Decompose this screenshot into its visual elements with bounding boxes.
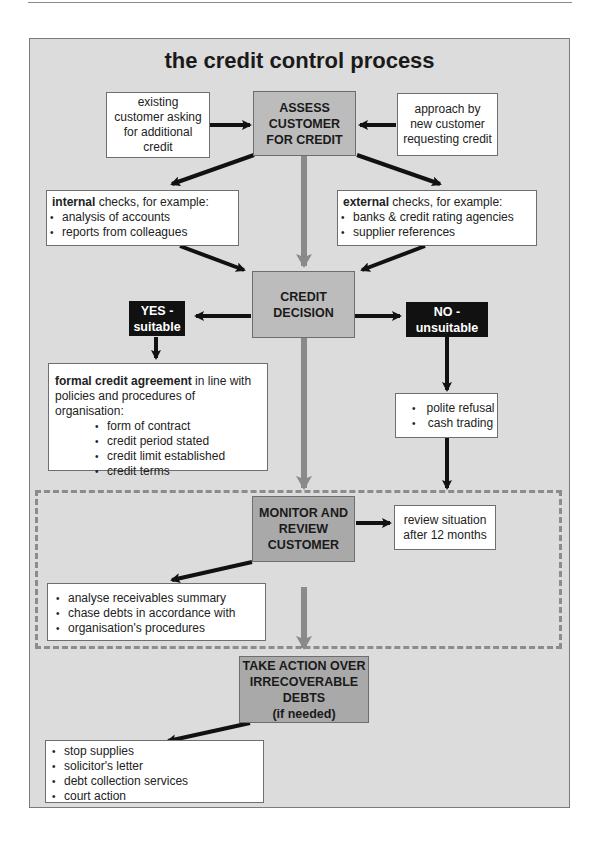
formal-agreement-line2: policies and procedures of organisation:	[55, 389, 261, 419]
existing-customer-line: for additional	[107, 125, 209, 140]
external-rest: checks, for example:	[389, 195, 502, 209]
monitor-action-item: chase debts in accordance with	[54, 606, 259, 621]
unsuitable-action-item: cash trading	[410, 416, 497, 431]
review-situation-box: review situation after 12 months	[394, 505, 496, 550]
formal-agreement-item: credit terms	[93, 464, 261, 479]
take-action-line: TAKE ACTION OVER	[243, 658, 366, 674]
take-action-box: TAKE ACTION OVER IRRECOVERABLE DEBTS (if…	[239, 656, 369, 723]
formal-rest: in line with	[192, 374, 251, 388]
take-action-line: (if needed)	[272, 706, 335, 722]
internal-checks-box: internal checks, for example: analysis o…	[46, 190, 239, 246]
take-action-line: IRRECOVERABLE	[250, 674, 358, 690]
yes-line: suitable	[129, 319, 185, 335]
credit-decision-line: CREDIT	[280, 289, 327, 305]
debt-action-item: court action	[50, 789, 259, 804]
take-action-line: DEBTS	[283, 690, 325, 706]
no-unsuitable-label: NO - unsuitable	[406, 302, 488, 337]
monitor-line: MONITOR AND	[259, 505, 348, 521]
monitor-line: REVIEW	[279, 521, 328, 537]
formal-agreement-item: form of contract	[93, 419, 261, 434]
monitor-action-item-continued: organisation's procedures	[54, 621, 259, 636]
no-line: NO -	[406, 304, 488, 320]
external-check-item: banks & credit rating agencies	[339, 210, 531, 225]
debt-action-item: stop supplies	[50, 744, 259, 759]
monitor-action-item: analyse receivables summary	[54, 591, 259, 606]
formal-agreement-item: credit period stated	[93, 434, 261, 449]
monitor-line: CUSTOMER	[268, 537, 339, 553]
new-customer-line: approach by	[398, 102, 497, 117]
debt-actions-box: stop supplies solicitor's letter debt co…	[45, 740, 264, 803]
external-checks-heading: external checks, for example:	[343, 195, 531, 210]
monitor-review-box: MONITOR AND REVIEW CUSTOMER	[252, 496, 355, 562]
formal-agreement-item: credit limit established	[93, 449, 261, 464]
formal-bold: formal credit agreement	[55, 374, 192, 388]
assess-line: CUSTOMER	[269, 116, 340, 132]
external-check-item: supplier references	[339, 225, 531, 240]
yes-suitable-label: YES - suitable	[129, 301, 185, 336]
existing-customer-box: existing customer asking for additional …	[106, 92, 210, 158]
no-line: unsuitable	[406, 320, 488, 336]
credit-decision-line: DECISION	[273, 305, 333, 321]
internal-bold: internal	[52, 195, 95, 209]
credit-decision-box: CREDIT DECISION	[252, 271, 355, 338]
review-situation-line: review situation	[395, 513, 495, 528]
assess-line: FOR CREDIT	[266, 132, 342, 148]
existing-customer-line: credit	[107, 140, 209, 155]
new-customer-line: requesting credit	[398, 132, 497, 147]
yes-line: YES -	[129, 303, 185, 319]
existing-customer-line: customer asking	[107, 110, 209, 125]
debt-action-item: debt collection services	[50, 774, 259, 789]
new-customer-line: new customer	[398, 117, 497, 132]
unsuitable-action-item: polite refusal	[410, 401, 497, 416]
formal-agreement-box: formal credit agreement in line with pol…	[48, 363, 268, 471]
new-customer-box: approach by new customer requesting cred…	[397, 93, 498, 156]
existing-customer-line: existing	[107, 95, 209, 110]
diagram-title: the credit control process	[29, 48, 570, 74]
formal-agreement-heading: formal credit agreement in line with	[55, 374, 261, 389]
internal-rest: checks, for example:	[95, 195, 208, 209]
debt-action-item: solicitor's letter	[50, 759, 259, 774]
assess-customer-box: ASSESS CUSTOMER FOR CREDIT	[253, 91, 356, 156]
monitor-actions-box: analyse receivables summary chase debts …	[47, 583, 266, 641]
internal-check-item: analysis of accounts	[48, 210, 233, 225]
internal-checks-heading: internal checks, for example:	[52, 195, 233, 210]
assess-line: ASSESS	[279, 100, 330, 116]
top-rule	[28, 2, 572, 3]
unsuitable-actions-box: polite refusal cash trading	[395, 393, 498, 438]
review-situation-line: after 12 months	[395, 528, 495, 543]
internal-check-item: reports from colleagues	[48, 225, 233, 240]
external-checks-box: external checks, for example: banks & cr…	[337, 190, 537, 246]
external-bold: external	[343, 195, 389, 209]
